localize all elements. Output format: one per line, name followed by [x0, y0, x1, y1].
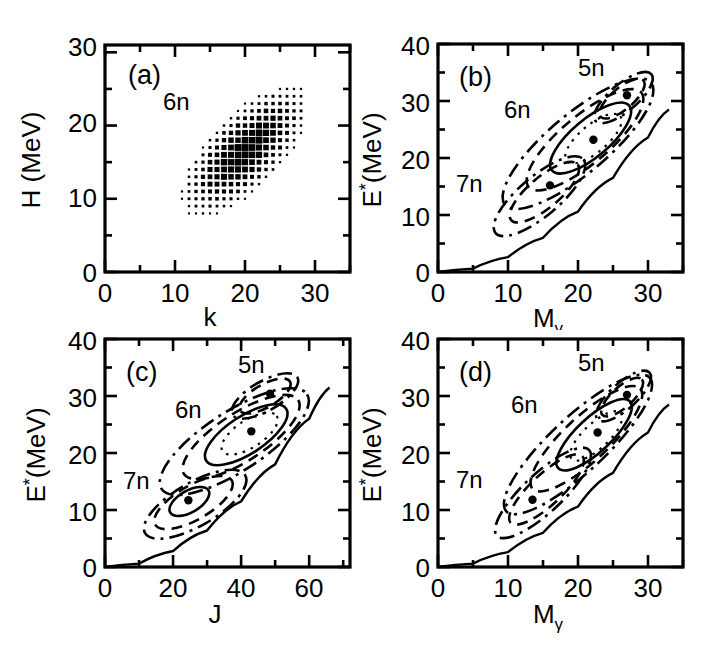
panel-d-ylabel: E*(MeV): [356, 407, 387, 502]
contour-6n-mid: [513, 74, 656, 205]
panel-c-ytick-10: 10: [68, 497, 97, 527]
panel-c-ytick-30: 30: [68, 383, 97, 413]
panel-a-xtick-20: 20: [231, 278, 260, 308]
panel-d-ytick-40: 40: [401, 326, 430, 356]
panel-c-ytick-40: 40: [68, 326, 97, 356]
panel-a-ytick-20: 20: [68, 108, 97, 138]
panel-c-ylabel: E*(MeV): [20, 407, 51, 502]
panel-d-xtick-0: 0: [431, 573, 445, 603]
panel-d-xtick-30: 30: [634, 573, 663, 603]
panel-a-xtick-30: 30: [301, 278, 330, 308]
panel-a-ylabel: H (MeV): [16, 112, 46, 209]
panel-d-label: (d): [459, 357, 492, 387]
panel-d-ytick-30: 30: [401, 383, 430, 413]
panel-d-ytick-20: 20: [401, 440, 430, 470]
panel-d-annotation-7n: 7n: [456, 466, 483, 493]
panel-d-annotation-6n: 6n: [511, 391, 538, 418]
panel-c-ytick-20: 20: [68, 440, 97, 470]
panel-b-ytick-30: 30: [401, 88, 430, 118]
panel-d-svg: (d) 5n 6n 7n 40 30 20 10 0 0 10 20 30 Mγ…: [356, 325, 716, 661]
panel-b-xtick-20: 20: [564, 278, 593, 308]
panel-a: (a) 6n 30 20 10 0 0 10 20 30 k H (MeV): [0, 0, 360, 330]
panel-c: (c) 5n 6n 7n 40 30 20 10 0 0 20 40 60 J …: [0, 325, 360, 661]
panel-b-xtick-0: 0: [431, 278, 445, 308]
contour-6n-mid: [517, 372, 655, 505]
panel-c-xtick-20: 20: [159, 573, 188, 603]
panel-a-ytick-0: 0: [83, 258, 97, 288]
panel-b: (b) 5n 6n 7n 40 30 20 10 0 0 10 20 30 Mγ…: [356, 0, 716, 330]
panel-b-ytick-0: 0: [416, 258, 430, 288]
centroid-marker-5n: [623, 91, 631, 99]
panel-b-annotation-5n: 5n: [578, 54, 605, 81]
panel-b-label: (b): [459, 62, 492, 92]
centroid-marker-6n: [247, 427, 255, 435]
panel-b-ytick-20: 20: [401, 145, 430, 175]
panel-d-xtick-20: 20: [564, 573, 593, 603]
panel-b-xtick-10: 10: [494, 278, 523, 308]
panel-c-annotation-7n: 7n: [123, 467, 150, 494]
panel-c-xlabel: J: [209, 599, 222, 629]
centroid-marker-7n: [184, 496, 192, 504]
panel-a-ytick-30: 30: [68, 32, 97, 62]
panel-a-density: [181, 88, 303, 215]
centroid-marker-7n: [546, 181, 554, 189]
panel-d-xtick-10: 10: [494, 573, 523, 603]
panel-b-ylabel: E*(MeV): [356, 112, 387, 207]
panel-a-xtick-0: 0: [98, 278, 112, 308]
panel-b-ytick-10: 10: [401, 202, 430, 232]
panel-d-contours: [438, 358, 669, 567]
panel-a-ytick-10: 10: [68, 183, 97, 213]
contour-7n-outer: [483, 144, 597, 248]
panel-b-svg: (b) 5n 6n 7n 40 30 20 10 0 0 10 20 30 Mγ…: [356, 0, 716, 330]
panel-d: (d) 5n 6n 7n 40 30 20 10 0 0 10 20 30 Mγ…: [356, 325, 716, 661]
panel-a-xtick-10: 10: [161, 278, 190, 308]
panel-c-xtick-60: 60: [295, 573, 324, 603]
contour-7n-mid: [147, 466, 241, 540]
figure-container: (a) 6n 30 20 10 0 0 10 20 30 k H (MeV) (…: [0, 0, 716, 661]
panel-c-ytick-0: 0: [83, 553, 97, 583]
centroid-marker-7n: [528, 496, 536, 504]
panel-d-ytick-0: 0: [416, 553, 430, 583]
panel-a-annotation-6n: 6n: [163, 88, 190, 115]
panel-d-xlabel: Mγ: [533, 599, 564, 634]
panel-c-contours: [105, 364, 330, 567]
panel-d-ytick-10: 10: [401, 497, 430, 527]
panel-c-label: (c): [126, 357, 157, 387]
panel-c-svg: (c) 5n 6n 7n 40 30 20 10 0 0 20 40 60 J …: [0, 325, 360, 661]
centroid-marker-6n: [589, 136, 597, 144]
panel-c-annotation-5n: 5n: [238, 351, 265, 378]
panel-c-annotation-6n: 6n: [175, 396, 202, 423]
centroid-marker-6n: [593, 428, 601, 436]
contour-7n-mid: [501, 153, 587, 232]
panel-c-xtick-0: 0: [98, 573, 112, 603]
panel-d-annotation-5n: 5n: [578, 349, 605, 376]
panel-b-ytick-40: 40: [401, 31, 430, 61]
panel-b-annotation-7n: 7n: [456, 170, 483, 197]
panel-b-xtick-30: 30: [634, 278, 663, 308]
panel-a-label: (a): [128, 60, 161, 90]
panel-b-annotation-6n: 6n: [504, 96, 531, 123]
panel-c-xtick-40: 40: [227, 573, 256, 603]
panel-a-svg: (a) 6n 30 20 10 0 0 10 20 30 k H (MeV): [0, 0, 360, 330]
